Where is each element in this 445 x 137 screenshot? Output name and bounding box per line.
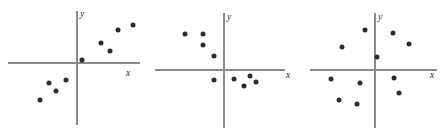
data-point [407,42,412,47]
data-points-panel-3 [329,28,412,107]
data-point [248,74,253,79]
data-point [392,76,397,81]
data-point [397,91,402,96]
data-point [254,80,259,85]
data-point [38,98,43,103]
scatter-panel-3-svg: x y [300,0,445,137]
data-point [340,45,345,50]
data-point [131,23,136,28]
data-point [337,98,342,103]
scatter-panel-2: x y [150,0,300,137]
data-point [242,84,247,89]
data-point [183,32,188,37]
data-point [363,28,368,33]
data-point [358,81,363,86]
data-point [64,78,69,83]
data-point [201,43,206,48]
y-axis-label-panel-1: y [79,9,85,19]
data-point [355,102,360,107]
x-axis-label-panel-2: x [285,70,291,80]
data-point [212,78,217,83]
data-point [47,81,52,86]
data-point [54,89,59,94]
data-points-panel-2 [183,32,259,89]
data-point [201,32,206,37]
scatterplot-figure: x y x y x y [0,0,445,137]
data-point [232,77,237,82]
data-point [329,77,334,82]
data-point [116,28,121,33]
y-axis-label-panel-3: y [377,12,383,22]
x-axis-label-panel-3: x [429,70,435,80]
data-point [108,49,113,54]
data-point [391,31,396,36]
scatter-panel-1-svg: x y [0,0,150,137]
scatter-panel-1: x y [0,0,150,137]
data-point [212,54,217,59]
y-axis-label-panel-2: y [226,12,232,22]
scatter-panel-2-svg: x y [150,0,300,137]
x-axis-label-panel-1: x [125,68,131,78]
data-point [375,55,380,60]
scatter-panel-3: x y [300,0,445,137]
data-point [99,41,104,46]
data-point [80,58,85,63]
